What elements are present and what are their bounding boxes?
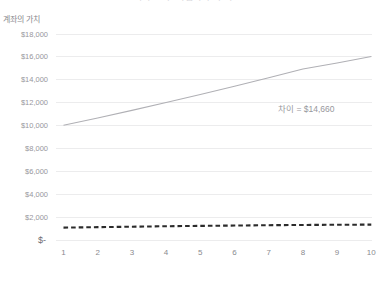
- series-line-2: [64, 225, 372, 228]
- difference-annotation-label: 차이 = $14,660: [278, 102, 334, 114]
- series-line-1: [64, 56, 372, 125]
- series-layer: [64, 56, 372, 227]
